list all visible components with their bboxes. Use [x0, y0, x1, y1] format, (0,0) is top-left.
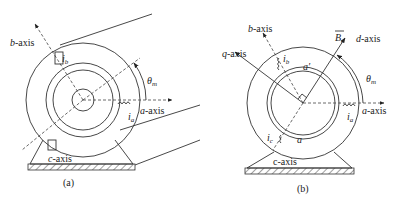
a-axis-label: a-axis — [140, 105, 165, 116]
c-axis-label: c-axis — [48, 153, 72, 164]
panel-a: θm ia ib bb-axis-axis a-axis c-axis (a) — [10, 14, 200, 189]
d-axis-label: d-axis — [356, 33, 381, 44]
base-plate — [28, 164, 135, 170]
ia-label-b: ia — [347, 111, 354, 124]
caption-b: (b) — [297, 183, 309, 195]
cylinder-base-edge — [135, 140, 200, 165]
base-support-b — [247, 152, 352, 168]
conductor-a-prime-label: a′ — [303, 61, 311, 72]
coil-c-icon — [48, 140, 56, 150]
c-axis-label-b: c-axis — [273, 156, 297, 167]
coil-b-icon-b — [278, 58, 280, 70]
conductor-a-label: a — [297, 134, 302, 145]
q-axis-line — [235, 52, 303, 103]
caption-a: (a) — [63, 177, 74, 189]
ib-label-b: ib — [283, 53, 290, 66]
machine-diagram: θm ia ib bb-axis-axis a-axis c-axis (a) … — [0, 0, 397, 202]
q-axis-label: q-axis — [222, 48, 247, 59]
theta-label-b: θm — [366, 73, 376, 86]
panel-b: θm ia ib ic a′ a b-axis q-axis d-axis a-… — [222, 23, 387, 195]
base-support — [30, 140, 133, 164]
coil-a-icon-b — [343, 104, 355, 106]
theta-label: θm — [147, 75, 157, 88]
base-plate-b — [245, 168, 354, 174]
b-axis-line — [35, 24, 83, 100]
cylinder-top-edge — [60, 14, 152, 45]
ic-label-b: ic — [267, 132, 274, 145]
b-axis-label: bb-axis-axis — [10, 37, 35, 48]
ia-label: ia — [128, 111, 135, 124]
a-axis-label-b: a-axis — [362, 105, 387, 116]
b-axis-label-b: b-axis — [248, 23, 273, 34]
br-label: Br — [335, 32, 344, 45]
c-axis-line — [22, 100, 83, 150]
